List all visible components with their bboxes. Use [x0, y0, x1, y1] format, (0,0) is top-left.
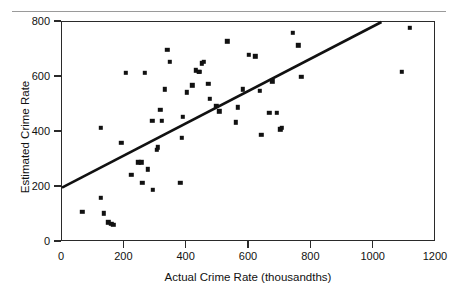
data-point	[160, 119, 164, 123]
x-tick-400	[185, 241, 186, 248]
data-point	[400, 69, 404, 73]
data-point	[158, 108, 162, 112]
data-point	[139, 160, 143, 164]
data-point	[165, 47, 169, 51]
data-point	[206, 82, 210, 86]
data-point	[236, 105, 240, 109]
x-tick-600	[247, 241, 248, 248]
data-point	[253, 54, 257, 58]
data-point	[275, 111, 279, 115]
x-tick-label-200: 200	[93, 250, 153, 262]
x-tick-label-800: 800	[280, 250, 340, 262]
data-point	[296, 43, 300, 47]
figure-container: Estimated Crime Rate 0200400600800 02004…	[0, 0, 460, 303]
data-point	[156, 145, 160, 149]
data-point	[190, 83, 194, 87]
data-point	[290, 31, 294, 35]
data-point	[202, 60, 206, 64]
data-point	[102, 211, 106, 215]
data-point	[178, 181, 182, 185]
x-tick-label-600: 600	[218, 250, 278, 262]
data-point	[217, 109, 221, 113]
x-tick-200	[123, 241, 124, 248]
data-point	[80, 210, 84, 214]
data-point	[163, 87, 167, 91]
data-point	[167, 60, 171, 64]
data-point	[180, 135, 184, 139]
y-tick-400	[54, 130, 61, 131]
x-tick-1000	[372, 241, 373, 248]
top-caption	[8, 0, 438, 6]
data-point	[234, 120, 238, 124]
y-tick-200	[54, 185, 61, 186]
data-point	[99, 126, 103, 130]
data-point	[184, 90, 188, 94]
x-tick-label-1200: 1200	[405, 250, 460, 262]
data-point	[129, 172, 133, 176]
data-point	[225, 39, 229, 43]
plot-area	[61, 21, 435, 241]
data-point	[124, 71, 128, 75]
data-point	[151, 188, 155, 192]
data-point	[407, 25, 411, 29]
header-rule	[12, 11, 446, 12]
y-tick-label-200: 200	[6, 181, 50, 192]
data-point	[99, 196, 103, 200]
data-point	[267, 111, 271, 115]
data-point	[181, 115, 185, 119]
y-tick-0	[54, 240, 61, 241]
data-point	[142, 71, 146, 75]
data-point	[280, 126, 284, 130]
x-tick-label-400: 400	[156, 250, 216, 262]
x-tick-label-1000: 1000	[343, 250, 403, 262]
data-point	[119, 141, 123, 145]
data-point	[146, 167, 150, 171]
data-point	[111, 223, 115, 227]
x-axis-label: Actual Crime Rate (thousandths)	[61, 271, 435, 283]
y-tick-label-0: 0	[6, 236, 50, 247]
data-point	[299, 75, 303, 79]
x-tick-label-0: 0	[31, 250, 91, 262]
x-tick-800	[310, 241, 311, 248]
y-tick-label-600: 600	[6, 71, 50, 82]
data-point	[247, 53, 251, 57]
data-point	[214, 104, 218, 108]
data-point	[241, 87, 245, 91]
data-point	[197, 69, 201, 73]
y-tick-600	[54, 75, 61, 76]
data-point	[270, 79, 274, 83]
data-point	[259, 133, 263, 137]
data-point	[208, 97, 212, 101]
y-tick-label-800: 800	[6, 16, 50, 27]
data-point	[140, 181, 144, 185]
y-tick-800	[54, 20, 61, 21]
data-point	[150, 119, 154, 123]
y-tick-label-400: 400	[6, 126, 50, 137]
data-point	[258, 89, 262, 93]
